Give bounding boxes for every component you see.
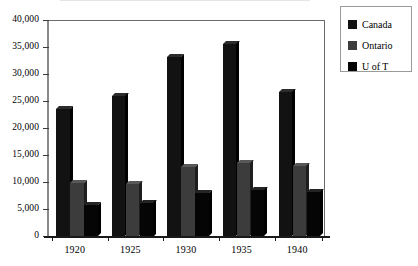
- bar-canada-1940: [279, 92, 293, 236]
- x-axis-tick-label: 1920: [64, 244, 85, 255]
- clipped-title-artifact: [60, 0, 310, 1]
- bar-canada-1920: [56, 109, 70, 236]
- bar-face: [293, 166, 307, 236]
- x-axis-tick: [108, 236, 109, 241]
- bar-face: [307, 192, 321, 236]
- legend-swatch-u-of-t: [348, 62, 357, 71]
- bar-side: [320, 189, 323, 236]
- legend-swatch-canada: [348, 20, 357, 29]
- y-axis-tick-label: 0: [34, 231, 39, 241]
- bar-face: [112, 96, 126, 236]
- bar-face: [181, 167, 195, 236]
- x-axis-tick: [163, 236, 164, 241]
- y-axis-tick-label: 20,000: [12, 123, 39, 133]
- bar-u-of-t-1935: [251, 190, 265, 236]
- bar-side: [153, 200, 156, 237]
- bar-face: [70, 183, 84, 237]
- bar-face: [251, 190, 265, 236]
- legend-item-u-of-t[interactable]: U of T: [348, 56, 411, 77]
- bar-side: [264, 187, 267, 236]
- bar-series-group: [47, 20, 325, 236]
- bar-face: [56, 109, 70, 236]
- bar-face: [195, 193, 209, 236]
- x-axis-tick-label: 1925: [120, 244, 141, 255]
- legend-item-label: Ontario: [362, 41, 393, 51]
- y-axis-tick-label: 40,000: [12, 15, 39, 25]
- bar-face: [223, 44, 237, 236]
- bar-face: [84, 205, 98, 236]
- x-axis-tick: [275, 236, 276, 241]
- bar-face: [126, 184, 140, 236]
- y-axis-tick-label: 5,000: [17, 204, 39, 214]
- bar-face: [237, 163, 251, 236]
- chart-canvas: 05,00010,00015,00020,00025,00030,00035,0…: [0, 0, 418, 266]
- y-axis-tick-label: 30,000: [12, 69, 39, 79]
- legend-swatch-ontario: [348, 41, 357, 50]
- bar-u-of-t-1930: [195, 193, 209, 236]
- bar-u-of-t-1920: [84, 205, 98, 236]
- bar-canada-1930: [167, 57, 181, 236]
- legend-item-label: U of T: [362, 62, 388, 72]
- bar-face: [140, 203, 154, 237]
- bar-side: [98, 202, 101, 236]
- bar-ontario-1935: [237, 163, 251, 236]
- bar-ontario-1920: [70, 183, 84, 237]
- x-axis-line: [44, 236, 330, 238]
- bar-u-of-t-1925: [140, 203, 154, 237]
- bar-ontario-1930: [181, 167, 195, 236]
- x-axis-tick: [52, 236, 53, 241]
- x-axis-tick-label: 1930: [176, 244, 197, 255]
- y-axis-tick-label: 25,000: [12, 96, 39, 106]
- bar-face: [279, 92, 293, 236]
- bar-canada-1925: [112, 96, 126, 236]
- x-axis-tick-label: 1940: [287, 244, 308, 255]
- legend-item-ontario[interactable]: Ontario: [348, 35, 411, 56]
- y-axis-tick-label: 15,000: [12, 150, 39, 160]
- x-axis-tick: [322, 236, 323, 241]
- y-axis-tick-label: 35,000: [12, 42, 39, 52]
- x-axis-tick: [219, 236, 220, 241]
- bar-face: [167, 57, 181, 236]
- legend-item-label: Canada: [362, 20, 392, 30]
- bar-ontario-1940: [293, 166, 307, 236]
- bar-u-of-t-1940: [307, 192, 321, 236]
- legend-item-canada[interactable]: Canada: [348, 14, 411, 35]
- y-axis-tick-label: 10,000: [12, 177, 39, 187]
- x-axis-tick-label: 1935: [231, 244, 252, 255]
- bar-side: [209, 190, 212, 236]
- bar-ontario-1925: [126, 184, 140, 236]
- bar-canada-1935: [223, 44, 237, 236]
- chart-legend: CanadaOntarioU of T: [340, 6, 412, 72]
